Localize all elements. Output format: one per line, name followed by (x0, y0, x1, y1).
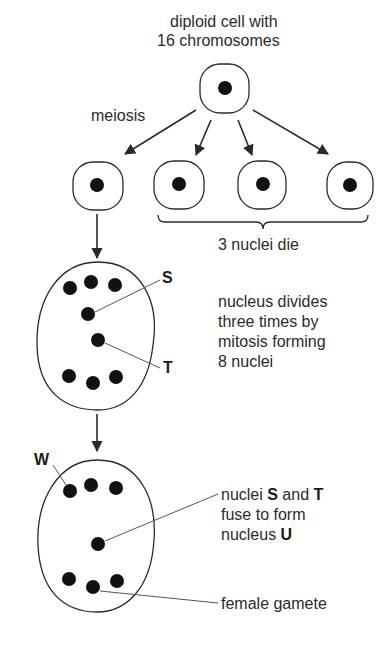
surviving-cell (73, 162, 123, 210)
dying-cell-2 (238, 161, 286, 209)
mitosis-line-2: three times by (218, 312, 318, 332)
female-gamete-sac (38, 460, 218, 612)
title-line-1: diploid cell with (170, 12, 278, 32)
diagram-canvas (0, 0, 390, 649)
nuclei-die-label: 3 nuclei die (218, 235, 299, 255)
dying-cell-1 (154, 161, 204, 209)
meiosis-label: meiosis (91, 106, 145, 126)
label-w: W (34, 451, 49, 469)
dying-cell-3 (327, 162, 373, 209)
meiosis-arrows (125, 110, 328, 155)
label-t: T (163, 359, 173, 377)
mitosis-line-1: nucleus divides (218, 292, 327, 312)
female-gamete-label: female gamete (221, 594, 327, 614)
fuse-s: S (267, 486, 278, 503)
mitosis-line-3: mitosis forming (218, 332, 326, 352)
fuse-line-2: fuse to form (221, 505, 305, 525)
brace (158, 215, 368, 229)
diploid-cell (200, 64, 249, 113)
fuse-text-pre: nuclei (221, 486, 267, 503)
fuse-text-mid: and (278, 486, 314, 503)
fuse-line-3: nucleus U (221, 525, 292, 545)
fuse-line-1: nuclei S and T (221, 485, 323, 505)
fuse-t: T (314, 486, 324, 503)
mitosis-line-4: 8 nuclei (218, 352, 273, 372)
fuse-u: U (281, 526, 293, 543)
fuse-text-nucleus: nucleus (221, 526, 281, 543)
embryo-sac-mitosis (37, 262, 160, 410)
title-line-2: 16 chromosomes (157, 31, 280, 51)
label-s: S (162, 269, 173, 287)
